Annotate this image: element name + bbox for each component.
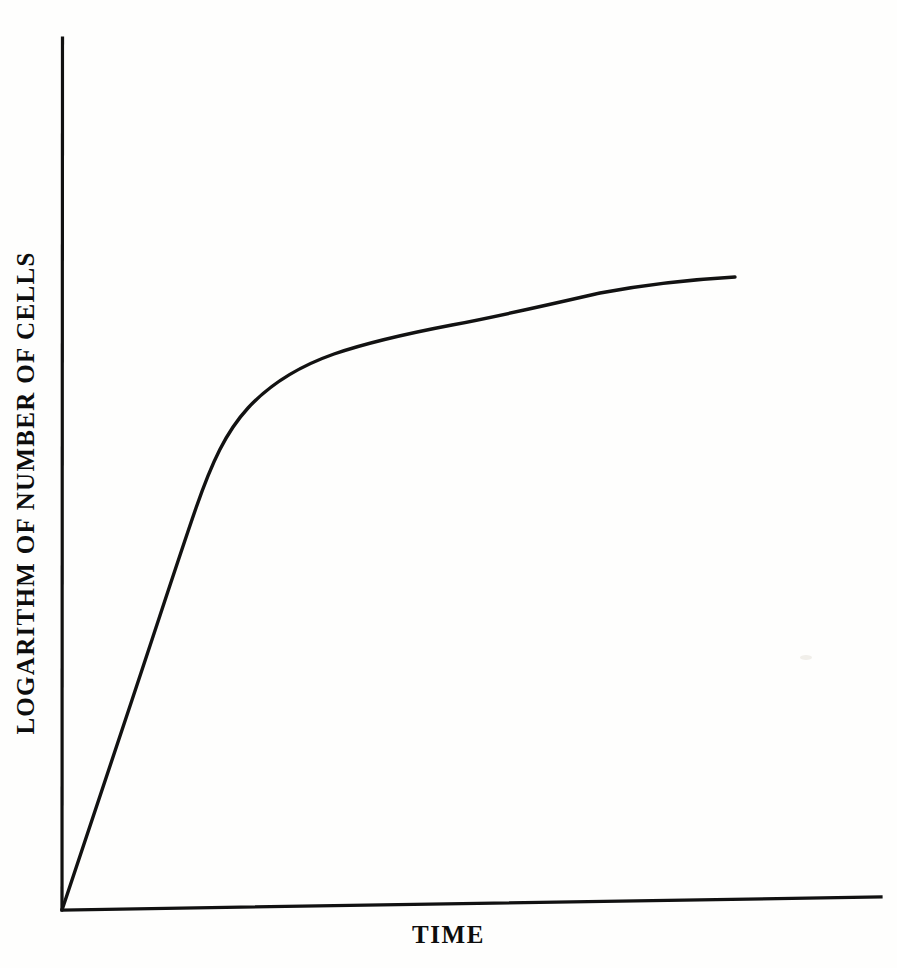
- x-axis-label: TIME: [0, 921, 897, 949]
- y-axis-label: LOGARITHM OF NUMBER OF CELLS: [12, 251, 40, 734]
- chart-plot-area: [0, 0, 897, 968]
- y-axis-line: [62, 38, 63, 909]
- growth-curve-figure: TIME LOGARITHM OF NUMBER OF CELLS: [0, 0, 897, 968]
- growth-curve-path: [62, 277, 735, 910]
- x-axis-line: [62, 897, 881, 910]
- y-axis-label-container: LOGARITHM OF NUMBER OF CELLS: [0, 247, 52, 739]
